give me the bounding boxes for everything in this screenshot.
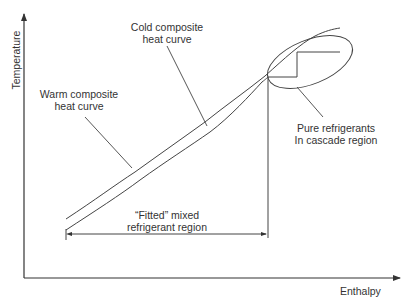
warm-curve-leader (85, 117, 132, 168)
x-axis-label: Enthalpy (340, 285, 381, 297)
warm-curve-label: Warm composite heat curve (38, 88, 120, 112)
y-axis-label: Temperature (10, 25, 22, 95)
diagram-canvas (0, 0, 409, 303)
dimension-arrow-left-head (66, 232, 72, 236)
cold-curve-label: Cold composite heat curve (127, 21, 207, 45)
cold-curve-leader (167, 46, 207, 126)
cascade-leader (297, 87, 323, 117)
cascade-region-ellipse (260, 25, 360, 100)
cascade-region-label: Pure refrigerants In cascade region (290, 122, 382, 146)
fitted-region-label: “Fitted” mixed refrigerant region (122, 209, 212, 233)
